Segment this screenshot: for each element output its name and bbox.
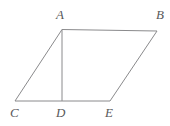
vertex-label-a: A [56,8,64,21]
segment-CA [15,30,62,102]
geometry-figure: A B C D E [0,0,170,126]
segment-BE [110,31,157,101]
geometry-diagram [0,0,170,126]
vertex-label-e: E [105,106,113,119]
vertex-label-c: C [10,106,19,119]
segment-AB [62,30,157,32]
vertex-label-d: D [56,106,65,119]
vertex-label-b: B [156,8,164,21]
